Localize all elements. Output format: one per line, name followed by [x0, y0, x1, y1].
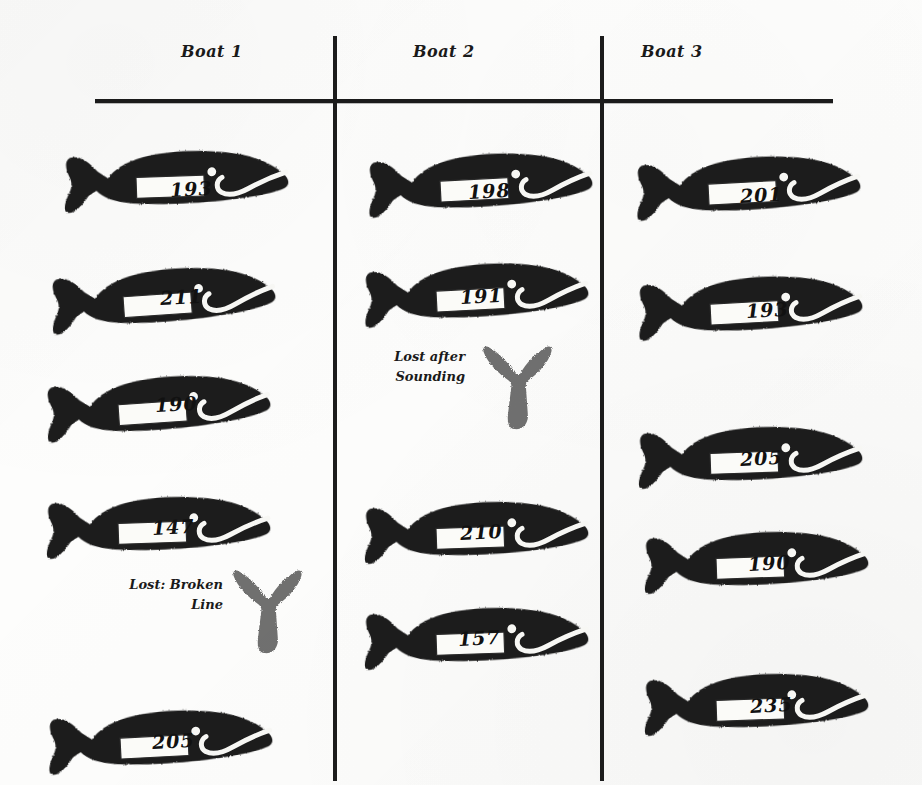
whale-stamp-icon [636, 651, 874, 751]
column-header-boat-3: Boat 3 [641, 42, 703, 61]
column-divider-2 [600, 36, 604, 781]
whale-stamp [38, 474, 276, 574]
whale-stamp-icon [628, 132, 867, 236]
whale-stamp [42, 242, 283, 350]
logbook-page: Boat 1 Boat 2 Boat 3 193 211 190 147 Los… [0, 0, 922, 785]
whale-stamp [356, 239, 595, 343]
whale-stamp [37, 350, 278, 458]
whale-stamp-icon [38, 474, 276, 574]
whale-tail-stamp-icon [478, 340, 554, 432]
whale-tail-stamp [228, 564, 304, 656]
whale-stamp [636, 509, 874, 609]
lost-annotation: Lost: Broken Line [88, 575, 223, 614]
whale-stamp-icon [360, 129, 599, 233]
column-header-boat-2: Boat 2 [413, 42, 475, 61]
whale-stamp-icon [40, 686, 279, 785]
column-divider-1 [333, 36, 337, 781]
whale-stamp [630, 252, 869, 356]
whale-stamp-icon [37, 350, 278, 458]
whale-tail-stamp [478, 340, 554, 432]
whale-stamp-icon [636, 509, 874, 609]
whale-stamp [630, 404, 868, 504]
whale-stamp [636, 651, 874, 751]
whale-stamp [628, 132, 867, 236]
whale-stamp [56, 128, 294, 228]
whale-stamp-icon [56, 128, 294, 228]
whale-tail-stamp-icon [228, 564, 304, 656]
whale-stamp-icon [630, 404, 868, 504]
header-horizontal-rule [95, 99, 833, 103]
whale-stamp-icon [356, 585, 594, 685]
whale-stamp [40, 686, 279, 785]
lost-annotation: Lost after Sounding [357, 347, 465, 386]
whale-stamp [360, 129, 599, 233]
column-header-boat-1: Boat 1 [181, 42, 243, 61]
whale-stamp-icon [356, 239, 595, 343]
whale-stamp-icon [356, 479, 594, 579]
whale-stamp [356, 585, 594, 685]
whale-stamp-icon [42, 242, 283, 350]
whale-stamp [356, 479, 594, 579]
whale-stamp-icon [630, 252, 869, 356]
